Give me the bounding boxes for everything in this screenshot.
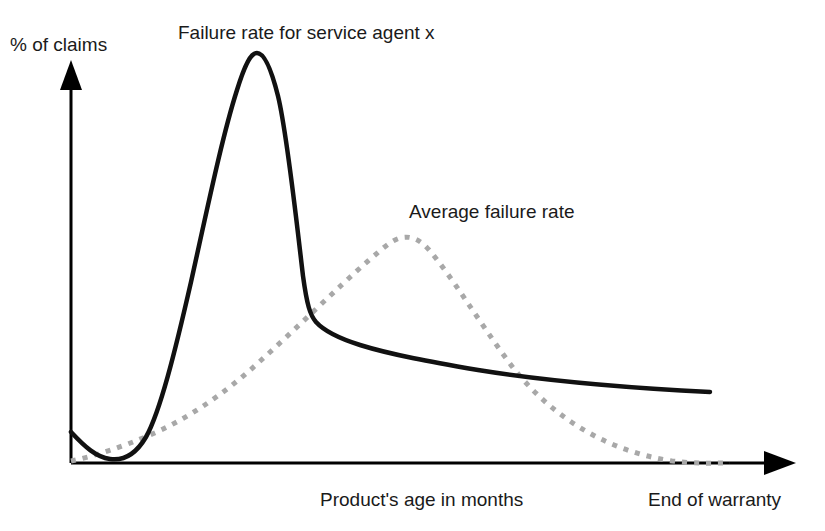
- x-axis-end-label: End of warranty: [648, 489, 781, 511]
- y-axis-arrowhead-icon: [60, 60, 82, 90]
- chart-canvas: [0, 0, 825, 531]
- y-axis: [60, 60, 82, 463]
- series-dashed-title-label: Average failure rate: [409, 201, 574, 223]
- series-solid-title-label: Failure rate for service agent x: [178, 22, 435, 44]
- x-axis: [71, 451, 796, 475]
- x-axis-arrowhead-icon: [764, 451, 796, 475]
- y-axis-label: % of claims: [10, 34, 107, 56]
- x-axis-label: Product's age in months: [320, 489, 523, 511]
- average-failure-rate-curve: [71, 237, 730, 463]
- failure-rate-chart: % of claims Failure rate for service age…: [0, 0, 825, 531]
- service-agent-failure-rate-curve: [71, 53, 710, 459]
